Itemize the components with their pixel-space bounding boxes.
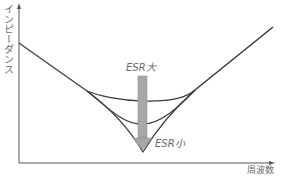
inductive-slope: [195, 27, 273, 90]
y-axis-arrow-icon: [17, 3, 21, 9]
esr-arrow-icon: [133, 76, 152, 150]
x-axis-label: 周波数: [247, 165, 274, 175]
esr-small-label: ESR小: [155, 139, 185, 149]
y-axis-label: インピーダンス: [0, 4, 12, 74]
impedance-frequency-diagram: [0, 0, 281, 176]
esr-large-label: ESR大: [126, 63, 156, 73]
capacitive-slope: [19, 43, 87, 91]
